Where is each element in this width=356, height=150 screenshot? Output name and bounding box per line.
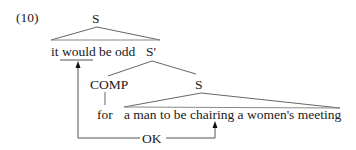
syntax-tree-diagram: (10) S it would be odd S' COMP S for a m… (0, 0, 356, 150)
embedded-clause-text: a man to be chairing a women's meeting (124, 108, 341, 122)
example-number: (10) (16, 11, 39, 25)
sbar-label: S' (146, 45, 156, 59)
arrowhead-up-icon (213, 121, 218, 128)
tree-lines (0, 0, 356, 150)
main-clause-text: it would be odd (51, 45, 135, 59)
sbar-branches (108, 61, 196, 76)
arrowhead-up-icon (76, 61, 81, 68)
comp-label: COMP (90, 78, 128, 92)
embedded-s-label: S (195, 78, 203, 92)
root-s-label: S (92, 12, 100, 26)
root-branches (51, 27, 160, 40)
embedded-s-triangle (124, 93, 340, 108)
complementizer-text: for (97, 108, 113, 122)
ok-relation-label: OK (142, 132, 162, 146)
